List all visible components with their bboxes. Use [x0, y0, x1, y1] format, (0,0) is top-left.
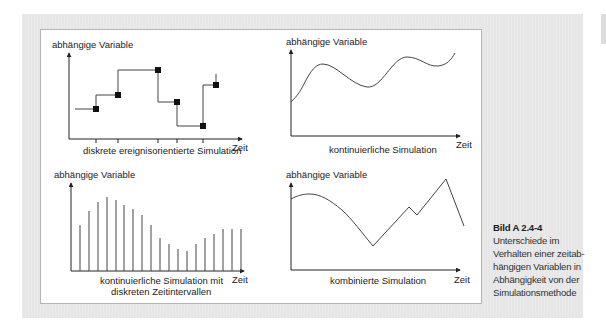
continuous-curve [291, 53, 455, 102]
chart-discrete-event: abhängige Variable diskrete ereignisorie… [52, 39, 248, 156]
chart-discrete-intervals: abhängige Variable kontinuierliche Simul… [54, 169, 248, 297]
square-marker-icon [174, 99, 180, 105]
caption-line: Verhalten einer zeitab- [493, 247, 585, 260]
x-axis-label: Zeit [456, 139, 472, 150]
x-axis-ticks [96, 139, 203, 143]
chart-caption: diskrete ereignisorientierte Simulation [83, 145, 241, 156]
step-line [75, 70, 216, 126]
y-axis-label: abhängige Variable [52, 39, 133, 50]
square-marker-icon [115, 92, 121, 98]
caption-line: Unterschiede im [493, 234, 585, 247]
square-marker-icon [93, 106, 99, 112]
x-axis-label: Zeit [232, 274, 248, 285]
y-axis-label: abhängige Variable [54, 169, 135, 180]
figure-number: Bild A 2.4-4 [493, 221, 585, 234]
chart-continuous: abhängige Variable kontinuierliche Simul… [286, 36, 472, 155]
square-marker-icon [200, 123, 206, 129]
x-axis-label: Zeit [232, 142, 248, 153]
chart-caption-line-2: diskreten Zeitintervallen [111, 286, 211, 297]
event-markers [93, 67, 219, 129]
chart-caption-line-1: kontinuierliche Simulation mit [100, 275, 223, 286]
square-marker-icon [213, 82, 219, 88]
chart-combined: abhängige Variable kombinierte Simulatio… [286, 169, 470, 286]
x-axis-label: Zeit [454, 274, 470, 285]
caption-line: Abhängigkeit von der [493, 273, 585, 286]
caption-line: hängigen Variablen in [493, 260, 585, 273]
chart-caption: kontinuierliche Simulation [329, 144, 437, 155]
y-axis-label: abhängige Variable [286, 36, 367, 47]
chart-caption: kombinierte Simulation [330, 275, 426, 286]
interval-stems [80, 197, 241, 271]
square-marker-icon [155, 67, 161, 73]
combined-curve [291, 179, 464, 246]
y-axis-label: abhängige Variable [286, 169, 367, 180]
caption-line: Simulationsmethode [493, 286, 585, 299]
figure-caption: Bild A 2.4-4 Unterschiede im Verhalten e… [493, 221, 585, 299]
